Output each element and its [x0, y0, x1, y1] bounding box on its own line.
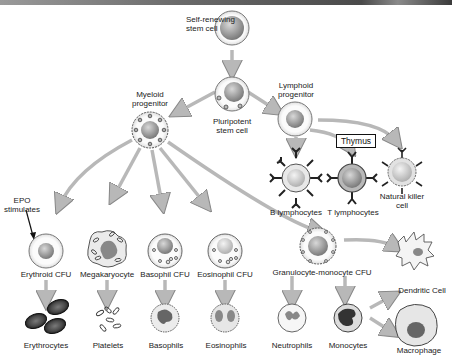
monocytes-cells [334, 304, 362, 332]
label-pluripotent: Pluripotent stem cell [213, 117, 251, 135]
macrophage-cell [396, 304, 438, 346]
label-megakaryocyte: Megakaryocyte [80, 270, 134, 279]
label-dendritic-cell: Dendritic Cell [398, 286, 446, 295]
label-b-lymphocytes: B lymphocytes [270, 208, 322, 217]
label-myeloid-progenitor: Myeloid progenitor [132, 90, 168, 108]
arrow-pluripotent-to-myeloid [178, 92, 215, 112]
basophil-cfu-cell [148, 234, 182, 268]
arrow-myeloid-to-eosinophil [160, 148, 205, 204]
myeloid-progenitor [132, 112, 168, 148]
label-self-renewing: Self-renewing stem cell [186, 15, 235, 33]
label-lymphoid-progenitor: Lymphoid progenitor [278, 81, 314, 99]
eosinophil-cfu-cell [208, 234, 242, 268]
arrow-gm-to-dendritic [344, 240, 396, 247]
erythrocytes-cells [23, 297, 70, 337]
label-epo-stimulates: EPO stimulates [4, 196, 40, 214]
epo-arrow [26, 210, 36, 240]
granulocyte-monocyte-cfu-cell [300, 228, 336, 264]
eosinophils-cells [211, 304, 239, 332]
label-basophil-cfu: Basophil CFU [140, 270, 189, 279]
label-erythrocytes: Erythrocytes [24, 341, 68, 350]
megakaryocyte-cell [88, 231, 127, 267]
arrow-myeloid-to-basophil [152, 150, 162, 204]
label-erythroid-cfu: Erythroid CFU [21, 270, 72, 279]
t-lymphocyte-cell [327, 152, 377, 204]
pluripotent-stem-cell [215, 77, 249, 111]
label-eosinophil-cfu: Eosinophil CFU [197, 270, 253, 279]
label-neutrophils: Neutrophils [272, 341, 312, 350]
label-eosinophils: Eosinophils [206, 341, 247, 350]
platelets-cells [96, 306, 122, 332]
neutrophils-cells [278, 304, 306, 332]
label-monocytes: Monocytes [329, 341, 368, 350]
dendritic-cell [396, 232, 434, 270]
label-granulocyte-monocyte-cfu: Granulocyte-monocyte CFU [272, 268, 371, 277]
label-t-lymphocytes: T lymphocytes [327, 208, 378, 217]
erythroid-cfu-cell [29, 234, 63, 268]
arrow-myeloid-to-erythroid [60, 140, 132, 205]
hematopoiesis-diagram [0, 0, 452, 360]
arrow-monocytes-to-macrophage [370, 318, 392, 332]
basophils-cells [151, 304, 179, 332]
arrow-monocytes-to-dendritic [370, 296, 392, 308]
thymus-box: Thymus [336, 134, 376, 148]
lymphoid-progenitor [278, 102, 312, 136]
label-platelets: Platelets [93, 341, 124, 350]
label-natural-killer: Natural killer cell [380, 192, 424, 210]
label-macrophage: Macrophage [397, 346, 441, 355]
arrow-pluripotent-to-lymphoid [248, 92, 276, 110]
b-lymphocyte-cell [270, 148, 322, 208]
arrow-myeloid-to-megakaryocyte [114, 148, 140, 196]
label-basophils: Basophils [149, 341, 184, 350]
natural-killer-cell [382, 148, 422, 194]
